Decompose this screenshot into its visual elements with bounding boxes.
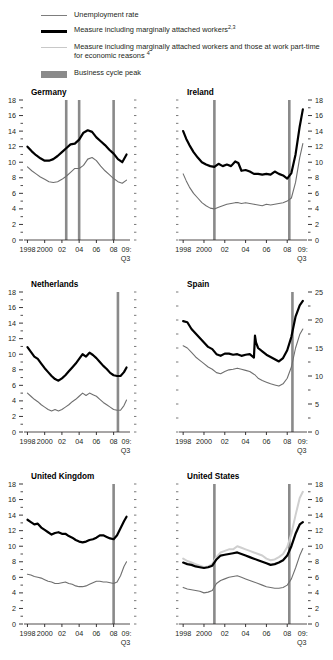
y-axis-tick-label: 2 [315, 604, 319, 613]
y-axis-tick-label: 14 [315, 127, 323, 136]
y-axis-tick-label: 12 [8, 142, 16, 151]
x-axis-tick-label: 09: [298, 245, 308, 254]
x-axis-tick-label: 08 [283, 245, 291, 254]
x-axis-tick-label: 1998 [19, 437, 35, 446]
x-axis-tick-label: 09: [298, 629, 308, 638]
x-axis-tick-label: 02 [221, 629, 229, 638]
x-axis-tick-label: 02 [58, 437, 66, 446]
y-axis-tick-label: 10 [315, 372, 323, 381]
y-axis-tick-label: 10 [8, 542, 16, 551]
panel-netherlands: Netherlands 0246810121416181998200002040… [0, 276, 166, 468]
legend-footnote-marker-4: 4 [147, 50, 150, 56]
business-cycle-peak-line [78, 100, 81, 240]
x-axis-tick-label: 04 [242, 245, 250, 254]
legend-label-business-cycle-peak: Business cycle peak [74, 68, 141, 77]
legend-line-swatch-parttime [41, 47, 67, 48]
x-axis-tick-label: 08 [110, 437, 118, 446]
x-axis-tick-label: 1998 [19, 245, 35, 254]
x-axis-tick-label: 02 [58, 629, 66, 638]
x-axis-tick-label: 08 [283, 437, 291, 446]
y-axis-tick-label: 18 [8, 96, 16, 105]
y-axis-tick-label: 6 [12, 381, 16, 390]
y-axis-tick-label: 14 [8, 319, 16, 328]
y-axis-tick-label: 0 [315, 236, 319, 245]
series-line [27, 158, 126, 184]
y-axis-tick-label: 18 [8, 480, 16, 489]
y-axis-tick-label: 15 [315, 344, 323, 353]
business-cycle-peak-line [112, 484, 115, 624]
chart-panel-grid: Germany 02468101214161819982000020406080… [0, 84, 333, 660]
x-axis-tick-label: 2000 [196, 437, 212, 446]
business-cycle-peak-line [213, 484, 216, 624]
x-axis-tick-label: 04 [75, 629, 83, 638]
plot-united-states: 024681012141618199820000204060809:Q3 [167, 468, 333, 660]
x-axis-tick-label: 06 [92, 629, 100, 638]
y-axis-tick-label: 16 [8, 111, 16, 120]
series-line [183, 109, 303, 178]
x-axis-sub-label: Q3 [121, 638, 131, 647]
y-axis-tick-label: 16 [315, 111, 323, 120]
y-axis-tick-label: 14 [315, 511, 323, 520]
x-axis-sub-label: Q3 [297, 446, 307, 455]
y-axis-tick-label: 0 [12, 428, 16, 437]
y-axis-tick-label: 10 [315, 542, 323, 551]
legend-line-swatch-marginally-attached [41, 30, 67, 33]
y-axis-tick-label: 10 [8, 350, 16, 359]
y-axis-tick-label: 10 [8, 158, 16, 167]
series-line [183, 522, 303, 568]
x-axis-tick-label: 04 [242, 629, 250, 638]
y-axis-tick-label: 6 [315, 573, 319, 582]
x-axis-tick-label: 1998 [175, 245, 191, 254]
y-axis-tick-label: 0 [315, 428, 319, 437]
panel-germany: Germany 02468101214161819982000020406080… [0, 84, 166, 276]
y-axis-tick-label: 2 [12, 220, 16, 229]
x-axis-tick-label: 08 [110, 245, 118, 254]
y-axis-tick-label: 8 [315, 173, 319, 182]
legend-footnote-marker-23: 2,3 [228, 24, 236, 30]
series-line [27, 517, 126, 543]
y-axis-tick-label: 2 [12, 604, 16, 613]
business-cycle-peak-line [117, 292, 120, 432]
x-axis-tick-label: 09: [298, 437, 308, 446]
x-axis-tick-label: 06 [92, 245, 100, 254]
y-axis-tick-label: 20 [315, 316, 323, 325]
x-axis-tick-label: 09: [122, 437, 132, 446]
plot-germany: 024681012141618199820000204060809:Q3 [0, 84, 166, 276]
chart-legend: Unemployment rate Measure including marg… [0, 0, 333, 84]
x-axis-tick-label: 06 [262, 629, 270, 638]
y-axis-tick-label: 2 [315, 220, 319, 229]
y-axis-tick-label: 16 [8, 303, 16, 312]
x-axis-sub-label: Q3 [297, 254, 307, 263]
x-axis-tick-label: 2000 [37, 629, 53, 638]
y-axis-tick-label: 12 [8, 526, 16, 535]
series-line [183, 301, 303, 361]
x-axis-tick-label: 1998 [175, 629, 191, 638]
x-axis-tick-label: 02 [58, 245, 66, 254]
y-axis-tick-label: 16 [8, 495, 16, 504]
plot-united-kingdom: 024681012141618199820000204060809:Q3 [0, 468, 166, 660]
y-axis-tick-label: 8 [12, 365, 16, 374]
legend-item-business-cycle-peak: Business cycle peak [41, 68, 141, 78]
y-axis-tick-label: 8 [12, 173, 16, 182]
y-axis-tick-label: 8 [315, 557, 319, 566]
y-axis-tick-label: 0 [12, 620, 16, 629]
y-axis-tick-label: 6 [315, 189, 319, 198]
x-axis-tick-label: 04 [75, 245, 83, 254]
y-axis-tick-label: 0 [12, 236, 16, 245]
business-cycle-peak-line [288, 100, 291, 240]
x-axis-tick-label: 2000 [37, 245, 53, 254]
legend-block-swatch-business-cycle-peak [41, 71, 67, 78]
x-axis-tick-label: 2000 [196, 245, 212, 254]
legend-line-swatch-unemployment-rate [41, 15, 67, 16]
legend-label-parttime: Measure including marginally attached wo… [74, 42, 326, 60]
legend-item-marginally-attached-plus-parttime: Measure including marginally attached wo… [41, 42, 326, 60]
y-axis-tick-label: 12 [315, 526, 323, 535]
business-cycle-peak-line [213, 100, 216, 240]
x-axis-tick-label: 09: [122, 629, 132, 638]
y-axis-tick-label: 16 [315, 495, 323, 504]
x-axis-sub-label: Q3 [297, 638, 307, 647]
x-axis-tick-label: 09: [122, 245, 132, 254]
y-axis-tick-label: 8 [12, 557, 16, 566]
y-axis-tick-label: 5 [315, 400, 319, 409]
panel-united-kingdom: United Kingdom 0246810121416181998200002… [0, 468, 166, 660]
